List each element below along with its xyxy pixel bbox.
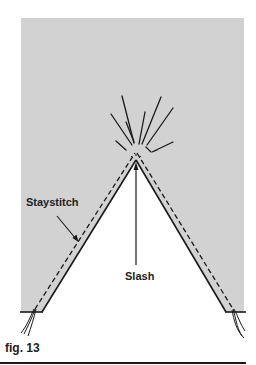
- bottom-divider-rule: [0, 362, 246, 364]
- staystitch-label: Staystitch: [26, 196, 79, 208]
- slash-arrow: [134, 162, 139, 265]
- thread-tails-right: [232, 309, 245, 338]
- slash-label: Slash: [125, 270, 154, 282]
- figure-number-caption: fig. 13: [5, 341, 40, 355]
- thread-tails-left: [21, 309, 36, 336]
- v-neck-slash-diagram: [0, 0, 256, 365]
- sewing-illustration: Staystitch Slash fig. 13: [0, 0, 256, 365]
